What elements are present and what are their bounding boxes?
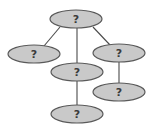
node-left-label: ?: [31, 48, 37, 61]
node-bottom-label: ?: [74, 108, 80, 121]
node-middle-label: ?: [74, 66, 80, 79]
node-lower-right: ?: [93, 83, 145, 101]
tree-diagram: ? ? ? ? ? ?: [0, 0, 154, 139]
node-right-label: ?: [116, 47, 122, 60]
node-root-label: ?: [73, 13, 79, 26]
edge-root-left: [44, 27, 60, 46]
node-bottom: ?: [51, 105, 103, 123]
edge-root-right: [93, 27, 110, 45]
node-right: ?: [93, 44, 145, 62]
node-lower-right-label: ?: [116, 86, 122, 99]
node-middle: ?: [51, 63, 103, 81]
nodes: ? ? ? ? ? ?: [8, 10, 145, 123]
node-left: ?: [8, 45, 60, 63]
node-root: ?: [50, 10, 102, 28]
